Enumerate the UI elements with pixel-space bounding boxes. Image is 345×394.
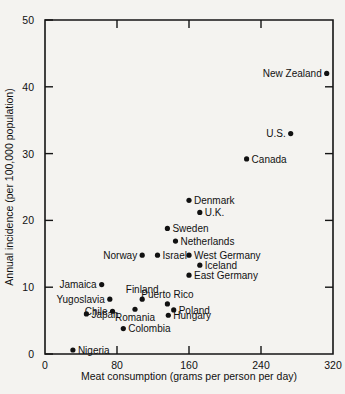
data-point[interactable] [186,253,191,258]
scatter-plot: 01020304050080160240320 New ZealandU.S.C… [0,0,345,394]
y-tick-label: 40 [22,81,34,93]
point-label: Jamaica [59,279,97,290]
axis-titles-group: Meat consumption (grams per person per d… [3,88,297,382]
point-label: New Zealand [263,68,322,79]
data-point[interactable] [121,326,126,331]
data-point[interactable] [186,198,191,203]
data-point[interactable] [70,347,75,352]
point-label: Israel [163,250,187,261]
data-point[interactable] [324,71,329,76]
data-point[interactable] [132,307,137,312]
point-label: Denmark [194,195,236,206]
point-label: Japan [91,309,118,320]
point-label: Norway [103,250,137,261]
data-point[interactable] [165,226,170,231]
x-tick-label: 320 [324,359,342,371]
data-point[interactable] [140,253,145,258]
data-point[interactable] [186,273,191,278]
point-label: Sweden [172,223,208,234]
point-label: Colombia [128,323,171,334]
point-label: Netherlands [181,236,235,247]
y-axis-title: Annual incidence (per 100,000 population… [3,88,15,285]
point-label: East Germany [194,270,258,281]
point-label: U.S. [266,128,285,139]
point-label: Yugoslavia [56,294,105,305]
point-label: Nigeria [78,345,110,356]
point-label: Puerto Rico [141,289,194,300]
x-axis-title: Meat consumption (grams per person per d… [81,370,297,382]
data-point[interactable] [173,239,178,244]
plot-canvas: 01020304050080160240320 New ZealandU.S.C… [0,0,345,394]
y-tick-label: 0 [28,348,34,360]
point-label: Romania [115,312,155,323]
y-tick-label: 50 [22,14,34,26]
data-point[interactable] [197,210,202,215]
y-tick-label: 30 [22,148,34,160]
data-point[interactable] [155,253,160,258]
data-point[interactable] [99,282,104,287]
data-point[interactable] [244,156,249,161]
data-point[interactable] [288,131,293,136]
point-label: Hungary [173,310,211,321]
point-label: U.K. [205,207,224,218]
x-tick-label: 0 [42,359,48,371]
point-label: Canada [252,154,287,165]
point-labels-group: New ZealandU.S.CanadaDenmarkU.K.SwedenNe… [56,68,321,356]
data-point[interactable] [107,297,112,302]
y-tick-label: 10 [22,281,34,293]
data-point[interactable] [165,301,170,306]
y-tick-label: 20 [22,214,34,226]
data-point[interactable] [197,263,202,268]
data-point[interactable] [166,313,171,318]
